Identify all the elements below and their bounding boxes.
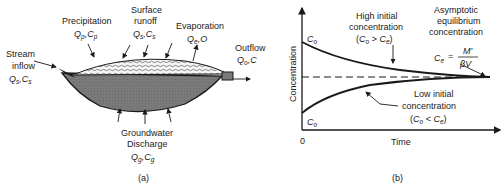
asymptotic-label-2: equilibrium xyxy=(437,16,481,26)
lake-surface-layer xyxy=(70,59,224,75)
x-axis-label: Time xyxy=(391,137,411,147)
figure-canvas: Precipitation Qp,Cp Surface runoff Qs,Cs… xyxy=(0,0,502,195)
ce-equation: Ce = M' βV xyxy=(434,46,478,69)
panel-a-caption: (a) xyxy=(138,173,149,183)
lake-body xyxy=(62,73,222,112)
outflow-outlet xyxy=(222,72,233,80)
precipitation-arrow-icon xyxy=(88,44,94,57)
evaporation-arrow-icon xyxy=(193,45,197,61)
runoff-arrow-3-icon xyxy=(166,43,172,58)
groundwater-label-1: Groundwater xyxy=(121,128,173,138)
groundwater-arrow-3-icon xyxy=(168,109,171,122)
low-condition: (Co < Ce) xyxy=(410,114,447,125)
panel-b-concentration-chart: Concentration Time 0 Co Co High initial … xyxy=(288,5,500,183)
asymptotic-label-1: Asymptotic xyxy=(434,5,479,15)
outflow-vars: Qo,C xyxy=(237,55,257,66)
svg-text:=: = xyxy=(448,51,453,61)
svg-text:βV: βV xyxy=(459,59,472,69)
y-axis-label: Concentration xyxy=(288,46,298,102)
groundwater-arrow-1-icon xyxy=(118,109,120,122)
surface-runoff-vars: Qs,Cs xyxy=(133,29,156,40)
precipitation-label: Precipitation xyxy=(62,16,112,26)
high-label-2: concentration xyxy=(349,22,403,32)
high-label-1: High initial xyxy=(356,11,398,21)
groundwater-label-2: Discharge xyxy=(127,139,168,149)
low-label-2: concentration xyxy=(402,101,456,111)
low-initial-curve xyxy=(302,77,490,113)
evaporation-label: Evaporation xyxy=(176,21,224,31)
svg-text:Ce: Ce xyxy=(434,53,445,64)
low-label-1: Low initial xyxy=(414,89,454,99)
runoff-arrow-1-icon xyxy=(123,45,130,58)
surface-runoff-label-2: runoff xyxy=(134,16,157,26)
asymptotic-label-3: concentration xyxy=(429,27,483,37)
svg-text:M': M' xyxy=(463,46,472,56)
panel-a-lake-diagram: Precipitation Qp,Cp Surface runoff Qs,Cs… xyxy=(6,5,266,183)
origin-label: 0 xyxy=(300,136,305,146)
high-condition: (Co > Ce) xyxy=(356,34,393,45)
groundwater-vars: Qg,Cg xyxy=(131,152,155,164)
c0-top-label: Co xyxy=(307,34,318,45)
c0-bottom-label: Co xyxy=(307,117,318,128)
runoff-arrow-2-icon xyxy=(144,45,148,57)
low-pointer-arrow-icon xyxy=(366,92,398,106)
stream-inflow-label-2: inflow xyxy=(12,61,36,71)
stream-inflow-arrow-icon xyxy=(34,61,56,67)
panel-b-caption: (b) xyxy=(392,173,403,183)
precipitation-vars: Qp,Cp xyxy=(74,29,98,41)
stream-inflow-label-1: Stream xyxy=(6,49,35,59)
stream-inflow-vars: Qs,Cs xyxy=(9,74,32,85)
surface-runoff-label-1: Surface xyxy=(131,5,162,15)
evaporation-vars: Qe,O xyxy=(187,34,207,45)
outflow-label: Outflow xyxy=(235,43,266,53)
